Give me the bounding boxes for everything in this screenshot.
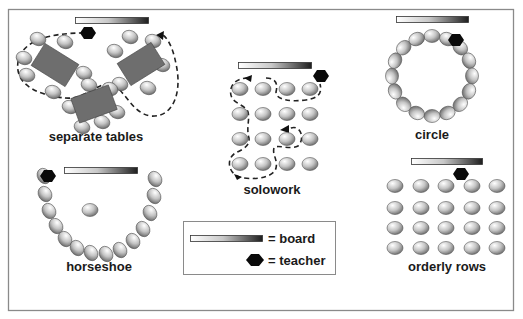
seat-icon bbox=[302, 158, 318, 171]
label-orderly-rows: orderly rows bbox=[408, 259, 486, 274]
legend-board-swatch bbox=[191, 236, 263, 242]
seat-icon bbox=[424, 110, 440, 123]
seat-icon bbox=[424, 30, 440, 43]
seat-icon bbox=[489, 180, 505, 193]
seat-icon bbox=[464, 222, 480, 235]
seat-icon bbox=[302, 133, 318, 146]
seat-icon bbox=[302, 83, 318, 96]
seat-icon bbox=[279, 133, 295, 146]
label-solowork: solowork bbox=[243, 182, 301, 197]
seat-icon bbox=[413, 180, 429, 193]
seat-icon bbox=[386, 68, 399, 84]
seat-icon bbox=[302, 108, 318, 121]
seat-icon bbox=[489, 222, 505, 235]
seat-icon bbox=[438, 242, 454, 255]
label-separate-tables: separate tables bbox=[49, 129, 144, 144]
seat-icon bbox=[232, 133, 248, 146]
seat-icon bbox=[464, 202, 480, 215]
seat-icon bbox=[255, 108, 271, 121]
legend: = board = teacher bbox=[184, 222, 336, 275]
seat-icon bbox=[82, 204, 98, 217]
seat-icon bbox=[489, 202, 505, 215]
seat-icon bbox=[464, 242, 480, 255]
seat-icon bbox=[387, 180, 403, 193]
seat-icon bbox=[464, 180, 480, 193]
seat-icon bbox=[279, 158, 295, 171]
seat-icon bbox=[413, 222, 429, 235]
board-icon bbox=[397, 17, 469, 23]
seat-icon bbox=[255, 133, 271, 146]
seat-icon bbox=[232, 158, 248, 171]
seat-icon bbox=[438, 222, 454, 235]
diagram-canvas: separate tables solowork circle horsesho… bbox=[0, 0, 523, 319]
seat-icon bbox=[387, 202, 403, 215]
seat-icon bbox=[489, 242, 505, 255]
seat-icon bbox=[232, 83, 248, 96]
seat-icon bbox=[255, 83, 271, 96]
seat-icon bbox=[279, 108, 295, 121]
seat-icon bbox=[232, 108, 248, 121]
label-horseshoe: horseshoe bbox=[66, 259, 132, 274]
label-circle: circle bbox=[415, 127, 449, 142]
seat-icon bbox=[466, 68, 479, 84]
board-icon bbox=[76, 18, 149, 24]
legend-teacher-label: = teacher bbox=[268, 253, 325, 268]
seat-icon bbox=[438, 202, 454, 215]
seating-diagram: separate tables solowork circle horsesho… bbox=[0, 0, 523, 319]
board-icon bbox=[65, 168, 138, 174]
seat-icon bbox=[255, 158, 271, 171]
seat-icon bbox=[387, 242, 403, 255]
seat-icon bbox=[413, 242, 429, 255]
seat-icon bbox=[279, 83, 295, 96]
board-icon bbox=[412, 159, 483, 165]
seat-icon bbox=[387, 222, 403, 235]
seat-icon bbox=[438, 180, 454, 193]
legend-board-label: = board bbox=[268, 231, 315, 246]
seat-icon bbox=[413, 202, 429, 215]
board-icon bbox=[239, 63, 312, 69]
